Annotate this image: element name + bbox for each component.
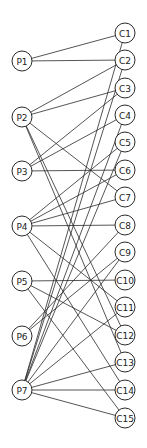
node-label: P1 [16,57,27,67]
edge-p7-c13 [22,362,125,390]
node-c13: C13 [115,352,135,372]
node-c8: C8 [115,215,135,235]
node-label: C7 [119,193,131,203]
node-label: C5 [119,138,131,148]
node-c2: C2 [115,50,135,70]
edge-p1-c2 [22,60,125,61]
node-c6: C6 [115,160,135,180]
node-label: C14 [116,386,134,396]
edge-p3-c4 [22,115,125,171]
node-c14: C14 [115,380,135,400]
node-label: P4 [16,222,27,232]
node-p1: P1 [12,51,32,71]
node-c12: C12 [115,325,135,345]
node-label: C2 [119,56,131,66]
node-c5: C5 [115,132,135,152]
edge-p7-c5 [22,142,125,390]
edge-p2-c13 [22,117,125,362]
node-p5: P5 [12,271,32,291]
bipartite-graph: P1P2P3P4P5P6P7C1C2C3C4C5C6C7C8C9C10C11C1… [0,0,147,448]
edge-p7-c9 [22,252,125,390]
node-c4: C4 [115,105,135,125]
node-label: P2 [16,113,27,123]
edge-p6-c9 [22,252,125,336]
node-label: C8 [119,221,131,231]
node-c3: C3 [115,78,135,98]
node-label: P6 [16,332,27,342]
edge-p2-c3 [22,88,125,117]
node-label: C12 [116,331,134,341]
node-label: P3 [16,167,27,177]
node-label: C1 [119,29,131,39]
edge-p5-c12 [22,281,125,335]
node-label: C9 [119,248,131,258]
edge-p3-c6 [22,170,125,171]
node-p2: P2 [12,107,32,127]
edge-p7-c1 [22,33,125,390]
node-c1: C1 [115,23,135,43]
node-c9: C9 [115,242,135,262]
node-label: C6 [119,166,131,176]
node-label: C10 [116,276,134,286]
node-label: P7 [16,386,27,396]
node-label: C11 [116,303,134,313]
node-label: C4 [119,111,131,121]
node-p6: P6 [12,326,32,346]
node-c15: C15 [115,408,135,428]
edge-p7-c15 [22,390,125,418]
node-label: C15 [116,414,134,424]
node-c11: C11 [115,297,135,317]
node-c7: C7 [115,187,135,207]
node-c10: C10 [115,270,135,290]
node-label: C3 [119,84,131,94]
edge-layer [22,33,125,418]
node-p4: P4 [12,216,32,236]
edge-p1-c1 [22,33,125,61]
node-p3: P3 [12,161,32,181]
node-p7: P7 [12,380,32,400]
node-label: C13 [116,358,134,368]
node-label: P5 [16,277,27,287]
